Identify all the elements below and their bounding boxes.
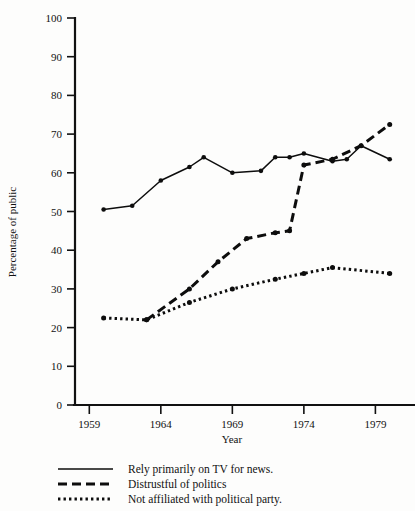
data-point <box>344 157 349 162</box>
y-tick-label: 0 <box>57 399 63 411</box>
series-line-2 <box>104 268 390 320</box>
data-point <box>387 122 392 127</box>
y-tick-label: 10 <box>51 360 63 372</box>
series-line-0 <box>104 146 390 210</box>
x-tick-group: 19591964196919741979 <box>78 405 387 430</box>
data-point <box>302 151 307 156</box>
x-tick-label: 1979 <box>364 418 387 430</box>
data-point <box>387 157 392 162</box>
data-point <box>244 236 249 241</box>
data-point <box>330 265 335 270</box>
data-point <box>301 163 306 168</box>
legend-label-0: Rely primarily on TV for news. <box>128 463 273 476</box>
y-tick-label: 70 <box>51 128 63 140</box>
data-point <box>230 171 235 176</box>
chart-legend: Rely primarily on TV for news.Distrustfu… <box>58 463 282 506</box>
y-tick-group: 0102030405060708090100 <box>46 12 76 411</box>
y-tick-label: 20 <box>51 322 63 334</box>
data-point <box>273 230 278 235</box>
x-axis-title: Year <box>222 433 243 445</box>
data-point <box>359 143 364 148</box>
data-point <box>187 300 192 305</box>
data-series-group <box>101 122 392 322</box>
data-point <box>187 286 192 291</box>
data-point <box>101 315 106 320</box>
legend-label-2: Not affiliated with political party. <box>128 493 282 506</box>
y-tick-label: 90 <box>51 51 63 63</box>
y-axis-group: 0102030405060708090100 <box>46 12 76 411</box>
data-point <box>101 207 106 212</box>
data-point <box>201 155 206 160</box>
y-tick-label: 30 <box>51 283 63 295</box>
y-axis-title: Percentage of public <box>6 187 18 278</box>
data-point <box>144 317 149 322</box>
data-point <box>330 157 335 162</box>
data-point <box>287 228 292 233</box>
data-point <box>230 286 235 291</box>
chart-page: 0102030405060708090100 19591964196919741… <box>0 0 415 511</box>
y-tick-label: 40 <box>51 244 63 256</box>
line-chart: 0102030405060708090100 19591964196919741… <box>0 0 415 511</box>
y-tick-label: 80 <box>51 89 63 101</box>
x-tick-label: 1974 <box>293 418 316 430</box>
data-point <box>130 203 135 208</box>
y-tick-label: 100 <box>46 12 63 24</box>
x-tick-label: 1964 <box>150 418 173 430</box>
legend-label-1: Distrustful of politics <box>128 478 227 491</box>
data-point <box>273 155 278 160</box>
data-point <box>216 259 221 264</box>
data-point <box>187 165 192 170</box>
y-tick-label: 50 <box>51 206 63 218</box>
data-point <box>259 169 264 174</box>
data-point <box>273 277 278 282</box>
y-tick-label: 60 <box>51 167 63 179</box>
x-tick-label: 1969 <box>221 418 244 430</box>
data-point <box>159 178 164 183</box>
x-tick-label: 1959 <box>78 418 101 430</box>
x-axis-group: 19591964196919741979 <box>74 405 414 430</box>
data-point <box>301 271 306 276</box>
data-point <box>287 155 292 160</box>
data-point <box>387 271 392 276</box>
